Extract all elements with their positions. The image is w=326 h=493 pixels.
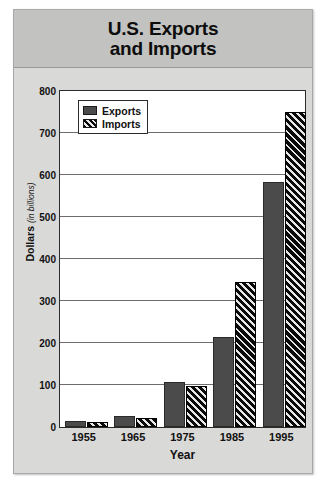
x-tick-label: 1995 (256, 431, 306, 443)
bar-imports-1965 (136, 418, 157, 427)
x-tick-label: 1965 (108, 431, 158, 443)
bar-exports-1995 (263, 182, 284, 427)
bar-exports-1975 (164, 382, 185, 427)
y-tick-label: 500 (26, 212, 56, 223)
bar-exports-1965 (114, 416, 135, 427)
bar-imports-1985 (235, 282, 256, 427)
legend-item-exports: Exports (83, 104, 141, 117)
bar-series-container (59, 90, 306, 428)
bar-imports-1995 (285, 112, 306, 427)
page-title: U.S. Exports and Imports (108, 19, 219, 59)
x-tick-label: 1955 (59, 431, 109, 443)
title-line-1: U.S. Exports (108, 19, 219, 39)
y-tick-label: 300 (26, 296, 56, 307)
chart-legend: Exports Imports (78, 100, 148, 134)
bar-imports-1955 (87, 422, 108, 427)
bar-exports-1985 (213, 337, 234, 427)
bar-exports-1955 (65, 421, 86, 427)
x-axis-title: Year (59, 448, 306, 462)
legend-label-exports: Exports (102, 105, 141, 117)
y-tick-label: 800 (26, 86, 56, 97)
title-line-2: and Imports (108, 39, 219, 59)
legend-swatch-exports-icon (83, 106, 97, 115)
bar-imports-1975 (186, 386, 207, 427)
y-axis-ticks: 0100200300400500600700800 (22, 90, 56, 428)
y-tick-label: 100 (26, 380, 56, 391)
x-tick-label: 1985 (207, 431, 257, 443)
x-tick-label: 1975 (158, 431, 208, 443)
legend-item-imports: Imports (83, 117, 141, 130)
bar-group (261, 90, 304, 427)
bar-group (211, 90, 254, 427)
y-tick-label: 700 (26, 128, 56, 139)
title-banner: U.S. Exports and Imports (14, 10, 312, 68)
chart-plot-wrapper: Dollars (in billions) 010020030040050060… (14, 68, 312, 473)
chart-card: U.S. Exports and Imports Dollars (in bil… (13, 9, 313, 474)
bar-group (162, 90, 205, 427)
y-tick-label: 600 (26, 170, 56, 181)
y-tick-label: 400 (26, 254, 56, 265)
y-tick-label: 0 (26, 422, 56, 433)
legend-swatch-imports-icon (83, 119, 97, 128)
legend-label-imports: Imports (102, 118, 141, 130)
bar-group (63, 90, 106, 427)
y-tick-label: 200 (26, 338, 56, 349)
bar-group (112, 90, 155, 427)
